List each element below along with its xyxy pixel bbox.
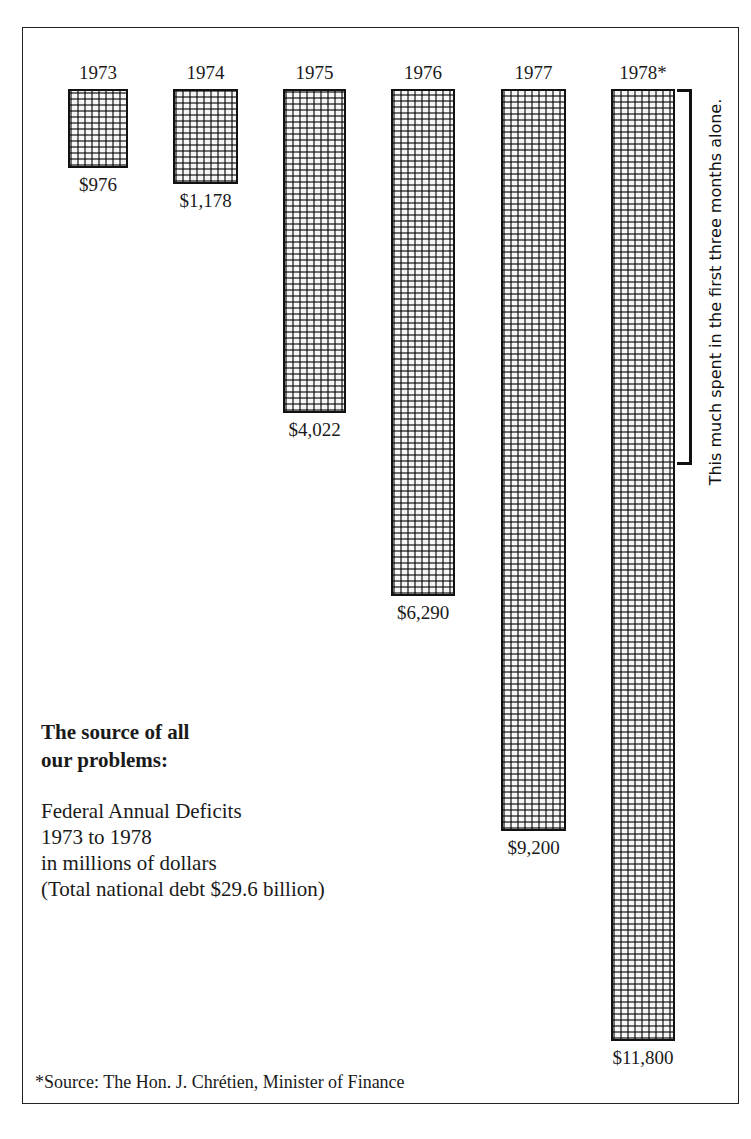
year-label: 1976 (378, 62, 468, 84)
value-label: $4,022 (260, 419, 370, 441)
year-label: 1977 (489, 62, 579, 84)
value-label: $1,178 (151, 190, 261, 212)
chart-title: The source of all our problems: (41, 718, 189, 774)
value-label: $9,200 (479, 837, 589, 859)
desc-line-2: 1973 to 1978 (41, 824, 325, 850)
desc-line-3: in millions of dollars (41, 850, 325, 876)
source-footnote: *Source: The Hon. J. Chrétien, Minister … (35, 1072, 405, 1093)
bracket-annotation (677, 89, 692, 465)
year-label: 1978* (598, 62, 688, 84)
desc-line-4: (Total national debt $29.6 billion) (41, 876, 325, 902)
deficit-bar (611, 89, 675, 1041)
value-label: $11,800 (588, 1047, 698, 1069)
deficit-bar (391, 89, 455, 596)
value-label: $976 (43, 174, 153, 196)
deficit-bar (68, 89, 128, 168)
year-label: 1975 (270, 62, 360, 84)
title-line-2: our problems: (41, 746, 189, 774)
title-line-1: The source of all (41, 718, 189, 746)
deficit-bar (283, 89, 346, 413)
chart-description: Federal Annual Deficits 1973 to 1978 in … (41, 798, 325, 902)
bracket-note: This much spent in the first three month… (706, 99, 725, 486)
value-label: $6,290 (368, 602, 478, 624)
year-label: 1974 (161, 62, 251, 84)
year-label: 1973 (53, 62, 143, 84)
desc-line-1: Federal Annual Deficits (41, 798, 325, 824)
deficit-bar (173, 89, 238, 184)
deficit-bar (501, 89, 566, 831)
